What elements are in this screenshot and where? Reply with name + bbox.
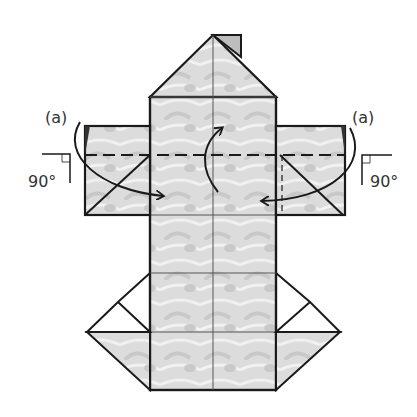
right-wing <box>276 126 345 215</box>
right-step-label: (a) <box>352 108 374 127</box>
bottom-left-flap <box>87 273 150 390</box>
left-step-label: (a) <box>45 108 67 127</box>
left-wing <box>85 126 150 215</box>
right-angle-label: 90° <box>370 172 398 191</box>
origami-diagram <box>0 0 417 417</box>
bottom-right-flap <box>276 273 340 390</box>
left-angle-label: 90° <box>28 172 56 191</box>
